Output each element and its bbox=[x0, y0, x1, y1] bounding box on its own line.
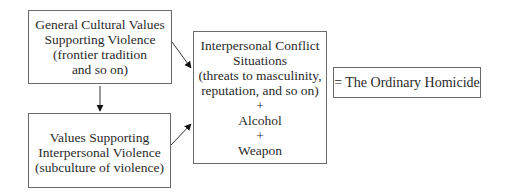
box-line: Values Supporting bbox=[50, 130, 149, 145]
box-line: (subculture of violence) bbox=[35, 160, 164, 175]
box-line: = The Ordinary Homicide bbox=[334, 75, 480, 90]
box-line: reputation, and so on) bbox=[201, 83, 319, 98]
ordinary-homicide-box: = The Ordinary Homicide bbox=[333, 67, 481, 98]
box-line: Weapon bbox=[238, 143, 282, 158]
box-line: (threats to masculinity, bbox=[198, 68, 321, 83]
arrow-general-to-conflict bbox=[172, 42, 191, 68]
values-supporting-violence-box: Values Supporting Interpersonal Violence… bbox=[28, 113, 171, 188]
arrow-values-to-conflict bbox=[171, 124, 191, 145]
plus-sign: + bbox=[256, 98, 264, 113]
box-line: Alcohol bbox=[238, 113, 282, 128]
box-line: Situations bbox=[233, 53, 287, 68]
plus-sign: + bbox=[256, 128, 264, 143]
box-line: General Cultural Values bbox=[35, 17, 164, 32]
box-line: and so on) bbox=[72, 62, 128, 77]
box-line: (frontier tradition bbox=[53, 47, 147, 62]
box-line: Supporting Violence bbox=[44, 32, 155, 47]
interpersonal-conflict-box: Interpersonal Conflict Situations (threa… bbox=[193, 31, 327, 164]
box-line: Interpersonal Conflict bbox=[201, 38, 320, 53]
box-line: Interpersonal Violence bbox=[38, 145, 160, 160]
general-cultural-values-box: General Cultural Values Supporting Viole… bbox=[28, 10, 172, 84]
